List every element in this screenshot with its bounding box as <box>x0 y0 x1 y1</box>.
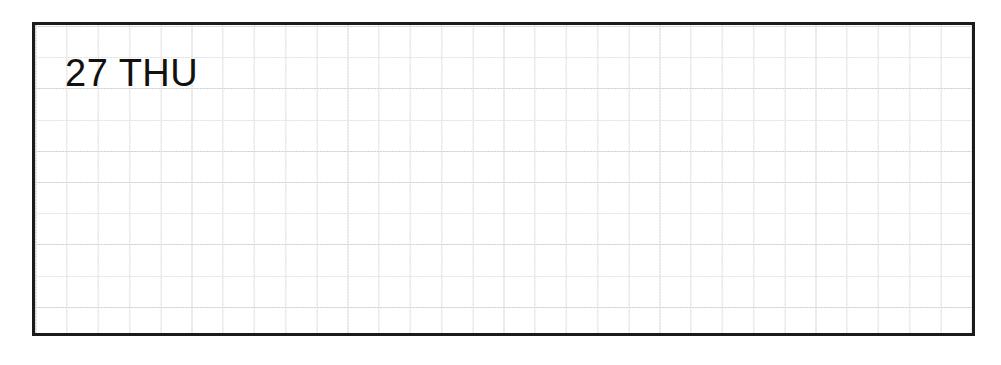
scanned-planner-page: 27 THU <box>0 0 1001 365</box>
day-entry-box[interactable]: 27 THU <box>32 22 975 336</box>
day-number: 27 <box>65 52 108 94</box>
day-heading: 27 THU <box>65 53 198 93</box>
day-weekday-label: THU <box>119 52 199 94</box>
day-notes-area[interactable] <box>35 105 972 333</box>
day-heading-separator <box>108 52 118 94</box>
